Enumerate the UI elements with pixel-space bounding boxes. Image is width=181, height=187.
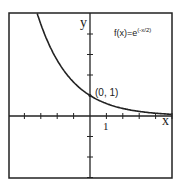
function-curve	[37, 14, 172, 115]
chart: y x 1 (0, 1) f(x)=e(-x/2)	[0, 0, 181, 187]
tick-label-one: 1	[103, 120, 109, 132]
y-axis-label: y	[80, 15, 87, 30]
x-axis-label: x	[162, 113, 169, 128]
axis-ticks	[24, 34, 172, 178]
function-label: f(x)=e(-x/2)	[114, 27, 151, 38]
point-marker	[89, 94, 92, 97]
point-label: (0, 1)	[95, 87, 118, 98]
